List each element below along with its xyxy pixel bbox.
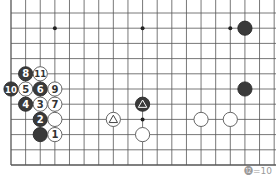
stone-move-number: 9 <box>51 84 58 95</box>
white-stone[interactable] <box>223 112 237 126</box>
stone-move-number: 5 <box>22 84 29 95</box>
stone-move-number: 3 <box>37 99 44 110</box>
stone-move-number: 1 <box>51 129 58 140</box>
stone-move-number: 10 <box>5 85 17 95</box>
stone-move-number: 11 <box>34 69 46 79</box>
stone-move-number: 8 <box>22 68 29 79</box>
stone-move-number: 4 <box>22 99 29 110</box>
black-stone[interactable] <box>238 21 252 35</box>
white-stone[interactable] <box>48 112 62 126</box>
stone-move-number: 6 <box>37 84 44 95</box>
star-point <box>53 26 57 30</box>
black-stone[interactable] <box>238 82 252 96</box>
move-caption: ⓬=10 <box>244 164 272 177</box>
go-board[interactable]: 8111056943721 <box>0 0 276 178</box>
star-point <box>141 26 145 30</box>
star-point <box>228 26 232 30</box>
white-stone[interactable] <box>194 112 208 126</box>
white-stone[interactable] <box>135 128 149 142</box>
stone-move-number: 2 <box>37 114 44 125</box>
stone-move-number: 7 <box>51 99 58 110</box>
black-stone[interactable] <box>33 128 47 142</box>
star-point <box>141 117 145 121</box>
